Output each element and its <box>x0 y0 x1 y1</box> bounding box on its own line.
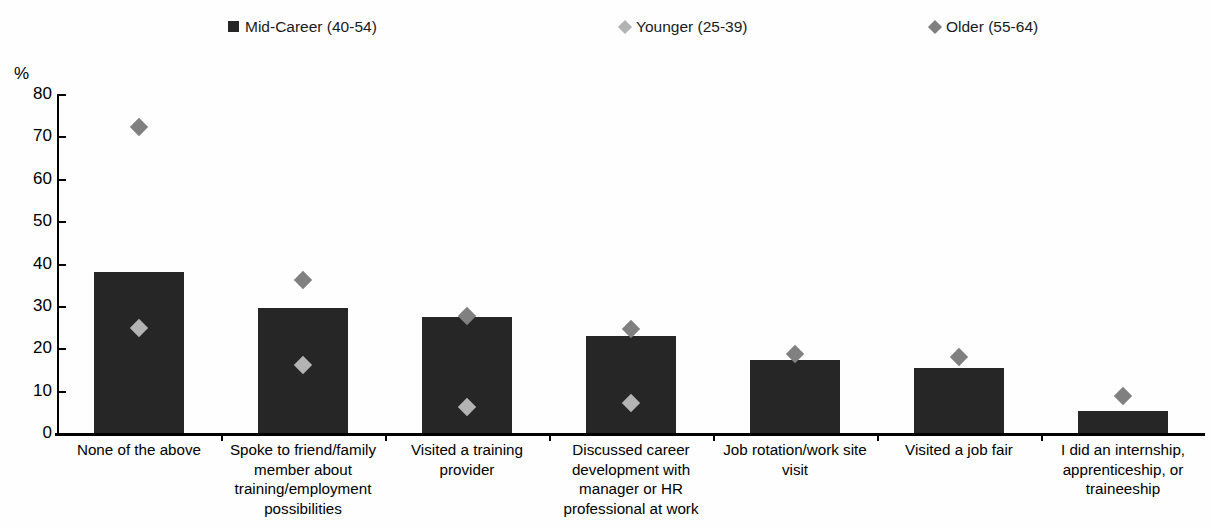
bar-0[interactable] <box>94 272 184 433</box>
x-category-label-6: I did an internship, apprenticeship, or … <box>1041 440 1205 499</box>
chart-container: Mid-Career (40-54) Younger (25-39) Older… <box>0 0 1212 527</box>
y-tick-label-60: 60 <box>6 169 52 189</box>
legend-square-marker-icon <box>228 21 239 32</box>
legend-label-mid-career: Mid-Career (40-54) <box>245 19 377 35</box>
y-tick-label-20: 20 <box>6 338 52 358</box>
y-tick-label-70: 70 <box>6 126 52 146</box>
y-tick-mark <box>59 348 66 350</box>
y-tick-mark <box>59 94 66 96</box>
legend-item-younger[interactable]: Younger (25-39) <box>620 19 747 35</box>
chart-legend: Mid-Career (40-54) Younger (25-39) Older… <box>0 16 1212 40</box>
marker-older-0[interactable] <box>130 118 148 136</box>
y-tick-mark <box>59 221 66 223</box>
x-axis-line <box>55 433 1205 436</box>
y-tick-label-50: 50 <box>6 211 52 231</box>
legend-diamond-marker-icon <box>618 20 632 34</box>
y-tick-label-40: 40 <box>6 254 52 274</box>
marker-older-1[interactable] <box>294 270 312 288</box>
plot-area <box>57 94 1205 433</box>
y-tick-mark <box>59 391 66 393</box>
legend-item-mid-career[interactable]: Mid-Career (40-54) <box>228 19 377 35</box>
y-tick-label-10: 10 <box>6 381 52 401</box>
y-tick-label-0: 0 <box>6 423 52 443</box>
x-axis-category-labels: None of the aboveSpoke to friend/family … <box>57 440 1205 527</box>
x-category-label-0: None of the above <box>57 440 221 460</box>
bar-6[interactable] <box>1078 411 1168 433</box>
bar-5[interactable] <box>914 368 1004 433</box>
y-tick-label-80: 80 <box>6 84 52 104</box>
marker-older-6[interactable] <box>1114 387 1132 405</box>
x-category-label-4: Job rotation/work site visit <box>713 440 877 479</box>
y-tick-mark <box>59 306 66 308</box>
y-axis-tick-labels: 80706050403020100 <box>0 0 52 527</box>
marker-older-5[interactable] <box>950 348 968 366</box>
y-tick-mark <box>59 264 66 266</box>
legend-item-older[interactable]: Older (55-64) <box>930 19 1038 35</box>
y-tick-mark <box>59 179 66 181</box>
x-category-label-5: Visited a job fair <box>877 440 1041 460</box>
bar-3[interactable] <box>586 336 676 433</box>
y-tick-mark <box>59 136 66 138</box>
y-tick-label-30: 30 <box>6 296 52 316</box>
x-category-label-2: Visited a training provider <box>385 440 549 479</box>
x-category-label-3: Discussed career development with manage… <box>549 440 713 518</box>
x-category-label-1: Spoke to friend/family member about trai… <box>221 440 385 518</box>
legend-label-younger: Younger (25-39) <box>636 19 747 35</box>
legend-diamond-marker-icon <box>928 20 942 34</box>
bar-4[interactable] <box>750 360 840 433</box>
legend-label-older: Older (55-64) <box>946 19 1038 35</box>
